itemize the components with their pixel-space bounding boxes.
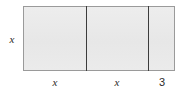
partition-divider-1 (86, 6, 87, 71)
segment-label-3: 3 (150, 76, 174, 88)
segment-label-1: x (43, 76, 67, 88)
partition-divider-2 (148, 6, 149, 71)
area-model-diagram: x x x 3 (0, 0, 182, 97)
height-label: x (4, 33, 20, 45)
rectangle-outline (23, 6, 175, 71)
segment-label-2: x (105, 76, 129, 88)
